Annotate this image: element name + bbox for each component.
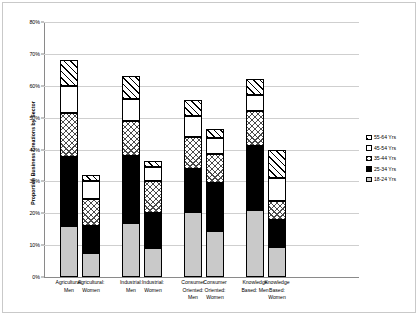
legend-label: 18-24 Yrs <box>374 176 396 182</box>
legend-label: 45-54 Yrs <box>374 145 396 151</box>
plot-area: 0%10%20%30%40%50%60%70%80% <box>44 22 359 277</box>
y-axis-tick-label: 80% <box>29 19 40 25</box>
y-axis-tick-label: 70% <box>29 51 40 57</box>
legend-swatch-icon <box>366 156 372 162</box>
bar-group[interactable] <box>268 22 286 277</box>
bar-segment[interactable] <box>144 181 162 213</box>
bar-segment[interactable] <box>144 167 162 181</box>
bar-segment[interactable] <box>82 253 100 277</box>
stacked-bar[interactable] <box>268 150 286 278</box>
bar-segment[interactable] <box>122 76 140 98</box>
bar-group[interactable] <box>144 22 162 277</box>
bar-group[interactable] <box>246 22 264 277</box>
bar-segment[interactable] <box>246 95 264 111</box>
bar-segment[interactable] <box>184 137 202 169</box>
bar-segment[interactable] <box>246 146 264 210</box>
legend-label: 35-44 Yrs <box>374 155 396 161</box>
bar-segment[interactable] <box>268 178 286 200</box>
legend-label: 25-34 Yrs <box>374 166 396 172</box>
bar-segment[interactable] <box>206 138 224 154</box>
legend-swatch-icon <box>366 135 372 141</box>
bar-segment[interactable] <box>122 121 140 156</box>
bar-segment[interactable] <box>206 129 224 139</box>
bar-segment[interactable] <box>144 161 162 167</box>
bar-segment[interactable] <box>122 99 140 121</box>
bar-segment[interactable] <box>82 226 100 253</box>
bar-group[interactable] <box>184 22 202 277</box>
x-axis-category-label: KnowledgeBased:Women <box>253 279 301 302</box>
stacked-bar[interactable] <box>144 161 162 277</box>
legend-label: 55-64 Yrs <box>374 134 396 140</box>
legend-swatch-icon <box>366 177 372 183</box>
bar-segment[interactable] <box>246 111 264 146</box>
legend-swatch-icon <box>366 166 372 172</box>
bar-segment[interactable] <box>122 223 140 277</box>
bar-segment[interactable] <box>268 201 286 220</box>
bar-segment[interactable] <box>246 210 264 277</box>
bar-segment[interactable] <box>184 169 202 212</box>
bar-segment[interactable] <box>60 157 78 226</box>
legend-item[interactable]: 45-54 Yrs <box>366 143 416 154</box>
bar-segment[interactable] <box>144 213 162 248</box>
bar-segment[interactable] <box>268 150 286 179</box>
bar-segment[interactable] <box>184 100 202 116</box>
y-axis-tick-label: 60% <box>29 83 40 89</box>
stacked-bar[interactable] <box>122 76 140 277</box>
y-axis-tick-label: 20% <box>29 210 40 216</box>
bar-segment[interactable] <box>184 212 202 277</box>
stacked-bar[interactable] <box>82 175 100 277</box>
stacked-bar[interactable] <box>60 60 78 277</box>
legend-swatch-icon <box>366 145 372 151</box>
y-axis-tick-label: 50% <box>29 115 40 121</box>
bar-segment[interactable] <box>82 175 100 181</box>
bar-segment[interactable] <box>144 248 162 277</box>
gridline <box>44 277 359 278</box>
bar-segment[interactable] <box>206 231 224 277</box>
y-axis-tick-label: 40% <box>29 147 40 153</box>
bar-segment[interactable] <box>206 154 224 183</box>
bar-segment[interactable] <box>268 247 286 277</box>
bar-segment[interactable] <box>82 181 100 199</box>
bar-segment[interactable] <box>246 79 264 95</box>
bar-segment[interactable] <box>60 86 78 113</box>
bar-series-group <box>44 22 359 277</box>
bar-segment[interactable] <box>122 156 140 223</box>
y-axis-tick-label: 0% <box>32 274 40 280</box>
stacked-bar[interactable] <box>184 100 202 277</box>
y-axis-tick-label: 30% <box>29 178 40 184</box>
stacked-bar[interactable] <box>246 79 264 277</box>
chart-legend: 55-64 Yrs45-54 Yrs35-44 Yrs25-34 Yrs18-2… <box>366 132 416 185</box>
legend-item[interactable]: 35-44 Yrs <box>366 153 416 164</box>
bar-group[interactable] <box>206 22 224 277</box>
legend-item[interactable]: 55-64 Yrs <box>366 132 416 143</box>
bar-segment[interactable] <box>82 199 100 226</box>
bar-segment[interactable] <box>60 113 78 158</box>
stacked-bar[interactable] <box>206 129 224 277</box>
bar-segment[interactable] <box>60 226 78 277</box>
chart-container: Proportion Business Creations by Sector … <box>0 0 418 315</box>
bar-segment[interactable] <box>268 220 286 247</box>
y-axis-tick-label: 10% <box>29 242 40 248</box>
x-axis-category-labels: Agricultural:MenAgricultural:WomenIndust… <box>44 279 359 313</box>
bar-segment[interactable] <box>184 116 202 137</box>
legend-item[interactable]: 25-34 Yrs <box>366 164 416 175</box>
bar-segment[interactable] <box>206 183 224 231</box>
legend-item[interactable]: 18-24 Yrs <box>366 174 416 185</box>
bar-group[interactable] <box>60 22 78 277</box>
bar-group[interactable] <box>82 22 100 277</box>
bar-group[interactable] <box>122 22 140 277</box>
bar-segment[interactable] <box>60 60 78 86</box>
